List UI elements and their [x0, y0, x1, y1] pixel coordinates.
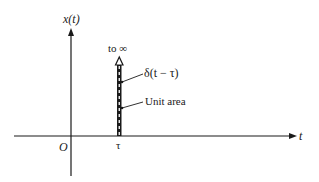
- impulse-label: δ(t − τ): [144, 67, 179, 79]
- impulse-label-dot: [121, 81, 124, 84]
- impulse-arrow: [116, 57, 124, 136]
- tau-label: τ: [116, 140, 120, 151]
- t-axis-arrow-icon: [289, 133, 297, 139]
- infinity-label: to ∞: [108, 43, 127, 54]
- area-label-dot: [121, 107, 124, 110]
- x-axis-arrow-icon: [68, 28, 74, 36]
- unit-area-label: Unit area: [145, 96, 186, 107]
- impulse-diagram: x(t) to ∞ δ(t − τ) Unit area O τ t: [0, 0, 319, 182]
- t-axis-label: t: [299, 130, 302, 142]
- y-axis-label: x(t): [63, 13, 80, 25]
- impulse-label-leader: [122, 74, 143, 82]
- impulse-hollow-arrowhead-icon: [116, 57, 124, 65]
- area-label-leader: [122, 102, 143, 108]
- diagram-canvas: [0, 0, 319, 182]
- origin-label: O: [59, 141, 68, 153]
